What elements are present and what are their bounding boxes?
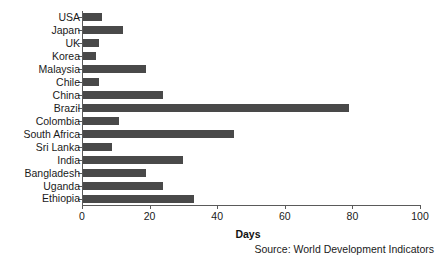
y-axis-label-south-africa: South Africa (23, 128, 80, 140)
x-tick-mark (420, 205, 421, 209)
y-axis-label-japan: Japan (51, 24, 80, 36)
x-tick-mark (217, 205, 218, 209)
x-tick-label-100: 100 (411, 210, 429, 222)
x-tick-mark (150, 205, 151, 209)
x-tick-mark (82, 205, 83, 209)
x-axis-title: Days (0, 228, 442, 240)
x-tick-label-40: 40 (211, 210, 223, 222)
y-axis-label-malaysia: Malaysia (39, 63, 80, 75)
y-axis-label-uk: UK (65, 37, 80, 49)
y-axis-label-usa: USA (58, 11, 80, 23)
y-axis-label-china: China (53, 89, 80, 101)
x-tick-label-20: 20 (144, 210, 156, 222)
x-tick-mark (352, 205, 353, 209)
y-axis-label-india: India (57, 154, 80, 166)
x-axis-title-text: Days (235, 228, 260, 240)
x-tick-label-60: 60 (279, 210, 291, 222)
y-axis-label-bangladesh: Bangladesh (25, 167, 80, 179)
source-note: Source: World Development Indicators (254, 243, 434, 255)
x-tick-label-0: 0 (79, 210, 85, 222)
y-axis-label-ethiopia: Ethiopia (42, 192, 80, 204)
bar-chart: USAJapanUKKoreaMalaysiaChileChinaBrazilC… (0, 0, 442, 259)
y-axis-label-uganda: Uganda (43, 180, 80, 192)
x-tick-label-80: 80 (347, 210, 359, 222)
y-axis-label-colombia: Colombia (36, 115, 80, 127)
y-axis-label-korea: Korea (52, 50, 80, 62)
y-axis-label-sri-lanka: Sri Lanka (36, 141, 80, 153)
x-tick-mark (285, 205, 286, 209)
y-axis-label-chile: Chile (56, 76, 80, 88)
y-axis-labels: USAJapanUKKoreaMalaysiaChileChinaBrazilC… (0, 11, 442, 205)
x-axis-ticks: 020406080100 (0, 205, 442, 227)
y-axis-label-brazil: Brazil (54, 102, 80, 114)
